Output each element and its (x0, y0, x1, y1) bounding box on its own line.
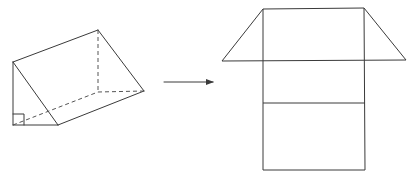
net-top-edge (263, 8, 364, 9)
net-right-edge (364, 8, 365, 170)
prism-hidden-base-edge (13, 92, 98, 125)
net-fold-line-1 (222, 60, 406, 61)
diagram-svg (0, 0, 418, 178)
diagram-canvas: Right triangular prism and its unfolded … (0, 0, 418, 178)
prism-net (222, 8, 406, 170)
net-left-triangle-edge (222, 9, 263, 61)
prism-hypotenuse-front-edge (13, 62, 58, 125)
right-angle-marker (13, 114, 24, 125)
triangular-prism (13, 30, 144, 125)
prism-bottom-right-edge (58, 91, 144, 125)
prism-back-hypotenuse-edge (98, 30, 144, 91)
prism-hidden-back-bottom-edge (98, 91, 144, 92)
prism-top-edge (13, 30, 98, 62)
net-right-triangle-edge (364, 8, 406, 60)
